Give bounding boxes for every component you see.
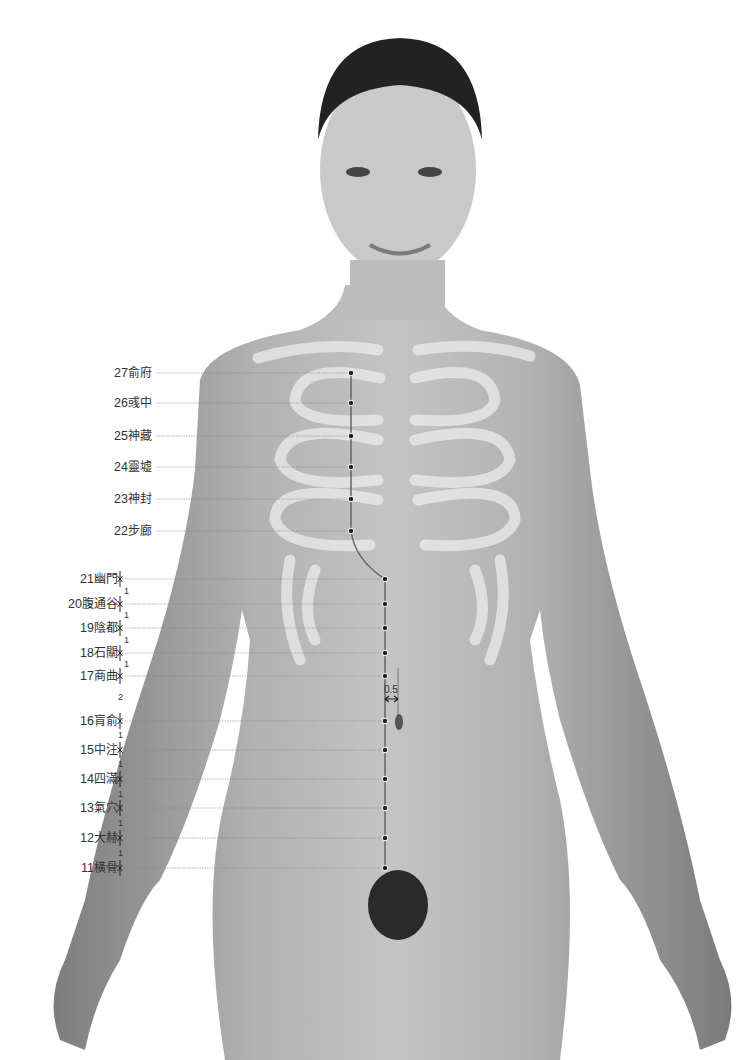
acupoint-dot bbox=[348, 400, 354, 406]
point-name: 石關 bbox=[94, 646, 118, 660]
acupoint-label: 13氣穴 bbox=[80, 801, 118, 815]
point-number: 17 bbox=[80, 669, 94, 683]
point-number: 12 bbox=[80, 831, 94, 845]
point-number: 23 bbox=[114, 492, 128, 506]
cun-measurement: 1 bbox=[118, 818, 123, 828]
acupoint-dot bbox=[382, 601, 388, 607]
acupoint-dot bbox=[382, 865, 388, 871]
cun-measurement: 1 bbox=[118, 759, 123, 769]
point-name: 中注 bbox=[94, 743, 118, 757]
acupoint-label: 24靈墟 bbox=[114, 460, 152, 474]
acupoint-label: 17商曲 bbox=[80, 669, 118, 683]
point-number: 27 bbox=[114, 366, 128, 380]
point-name: 幽門 bbox=[94, 572, 118, 586]
acupoint-dot bbox=[382, 650, 388, 656]
point-name: 肓俞 bbox=[94, 714, 118, 728]
cun-measurement: 1 bbox=[124, 610, 129, 620]
acupoint-label: 14四滿 bbox=[80, 772, 118, 786]
point-name: 橫骨 bbox=[94, 861, 118, 875]
point-name: 大赫 bbox=[94, 831, 118, 845]
body-silhouette bbox=[54, 38, 732, 1060]
acupoint-diagram: 27俞府26彧中25神藏24靈墟23神封22步廊21幽門20腹通谷19陰都18石… bbox=[0, 0, 743, 1060]
point-name: 氣穴 bbox=[94, 801, 118, 815]
point-number: 19 bbox=[80, 621, 94, 635]
acupoint-label: 20腹通谷 bbox=[68, 597, 118, 611]
acupoint-label: 23神封 bbox=[114, 492, 152, 506]
acupoint-dot bbox=[348, 528, 354, 534]
point-name: 神藏 bbox=[128, 429, 152, 443]
point-name: 商曲 bbox=[94, 669, 118, 683]
point-name: 腹通谷 bbox=[82, 597, 118, 611]
point-number: 25 bbox=[114, 429, 128, 443]
point-number: 22 bbox=[114, 524, 128, 538]
point-number: 11 bbox=[81, 861, 94, 875]
acupoint-dot bbox=[382, 835, 388, 841]
acupoint-dot bbox=[382, 805, 388, 811]
cun-measurement: 2 bbox=[118, 692, 123, 702]
acupoint-label: 26彧中 bbox=[114, 396, 152, 410]
acupoint-label: 16肓俞 bbox=[80, 714, 118, 728]
acupoint-label: 18石關 bbox=[80, 646, 118, 660]
acupoint-label: 19陰都 bbox=[80, 621, 118, 635]
point-number: 18 bbox=[80, 646, 94, 660]
point-name: 步廊 bbox=[128, 524, 152, 538]
point-name: 神封 bbox=[128, 492, 152, 506]
cun-measurement: 1 bbox=[118, 789, 123, 799]
point-number: 13 bbox=[80, 801, 94, 815]
acupoint-label: 27俞府 bbox=[114, 366, 152, 380]
acupoint-label: 15中注 bbox=[80, 743, 118, 757]
cun-measurement: 1 bbox=[118, 848, 123, 858]
acupoint-dot bbox=[348, 370, 354, 376]
acupoint-dot bbox=[348, 496, 354, 502]
acupoint-dot bbox=[382, 576, 388, 582]
acupoint-dot bbox=[382, 673, 388, 679]
cun-measurement: 1 bbox=[124, 635, 129, 645]
acupoint-dot bbox=[382, 747, 388, 753]
acupoint-label: 11橫骨 bbox=[81, 861, 118, 875]
acupoint-dot bbox=[348, 433, 354, 439]
point-number: 24 bbox=[114, 460, 128, 474]
point-number: 26 bbox=[114, 396, 128, 410]
point-name: 彧中 bbox=[128, 396, 152, 410]
point-number: 14 bbox=[80, 772, 94, 786]
acupoint-label: 21幽門 bbox=[80, 572, 118, 586]
acupoint-label: 25神藏 bbox=[114, 429, 152, 443]
acupoint-dot bbox=[382, 718, 388, 724]
cun-measurement: 1 bbox=[124, 586, 129, 596]
point-number: 21 bbox=[80, 572, 94, 586]
point-name: 俞府 bbox=[128, 366, 152, 380]
point-number: 20 bbox=[68, 597, 82, 611]
point-number: 15 bbox=[80, 743, 94, 757]
acupoint-dot bbox=[382, 625, 388, 631]
body-figure bbox=[0, 0, 743, 1060]
point-number: 16 bbox=[80, 714, 94, 728]
acupoint-dot bbox=[382, 776, 388, 782]
cun-measurement: 1 bbox=[118, 730, 123, 740]
offset-label: 0.5 bbox=[384, 685, 398, 695]
acupoint-dot bbox=[348, 464, 354, 470]
acupoint-label: 22步廊 bbox=[114, 524, 152, 538]
point-name: 靈墟 bbox=[128, 460, 152, 474]
cun-measurement: 1 bbox=[124, 659, 129, 669]
point-name: 四滿 bbox=[94, 772, 118, 786]
point-name: 陰都 bbox=[94, 621, 118, 635]
acupoint-label: 12大赫 bbox=[80, 831, 118, 845]
